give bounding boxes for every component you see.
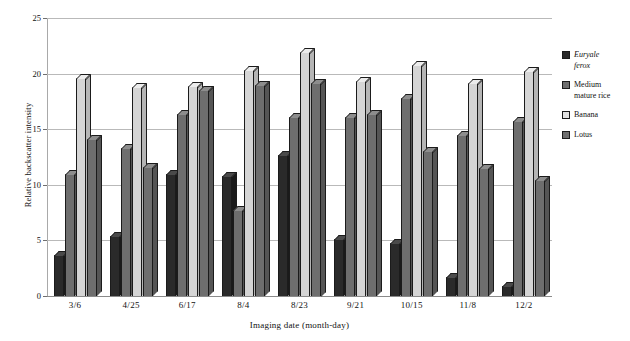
bar-group <box>440 18 496 296</box>
bar[interactable] <box>367 114 377 296</box>
bar[interactable] <box>132 87 142 296</box>
bar[interactable] <box>334 239 344 296</box>
bar-slot <box>278 18 288 296</box>
x-axis-tick-label: 3/6 <box>47 300 103 310</box>
bar[interactable] <box>143 167 153 296</box>
bar-side-face <box>489 164 494 296</box>
bar[interactable] <box>390 243 400 296</box>
bar[interactable] <box>479 168 489 296</box>
bar[interactable] <box>65 174 75 296</box>
bar-slot <box>535 18 545 296</box>
bar[interactable] <box>255 85 265 296</box>
bar-side-face <box>97 135 102 296</box>
bar-side-face <box>265 81 270 296</box>
bar-side-face <box>321 79 326 297</box>
bar-slot <box>345 18 355 296</box>
bar[interactable] <box>233 210 243 296</box>
bar-front-face <box>413 66 421 296</box>
bar[interactable] <box>311 83 321 297</box>
bar-front-face <box>514 122 522 296</box>
bar[interactable] <box>513 121 523 296</box>
bar[interactable] <box>166 174 176 296</box>
bar-slot <box>356 18 366 296</box>
bar-slot <box>334 18 344 296</box>
bar-slot <box>87 18 97 296</box>
x-axis-tick-label: 9/21 <box>328 300 384 310</box>
bar-slot <box>110 18 120 296</box>
bar-front-face <box>525 72 533 296</box>
bar-slot <box>524 18 534 296</box>
bar-front-face <box>178 115 186 296</box>
bar-front-face <box>290 118 298 296</box>
bar-slot <box>300 18 310 296</box>
bar[interactable] <box>289 117 299 296</box>
bar-slot <box>255 18 265 296</box>
bar[interactable] <box>412 65 422 296</box>
legend-label-line2: ferox <box>574 61 590 70</box>
bar-slot <box>479 18 489 296</box>
bar[interactable] <box>345 117 355 296</box>
legend-item[interactable]: Banana <box>562 110 630 121</box>
bar[interactable] <box>535 180 545 296</box>
bar[interactable] <box>188 86 198 296</box>
bar-slot <box>502 18 512 296</box>
x-axis-tick-label: 11/8 <box>440 300 496 310</box>
chart-figure: Relative backscatter intensity 051015202… <box>0 0 630 341</box>
bar[interactable] <box>87 139 97 296</box>
x-axis-tick-label: 8/4 <box>215 300 271 310</box>
bar-front-face <box>66 175 74 296</box>
bar-group <box>384 18 440 296</box>
bar[interactable] <box>300 52 310 296</box>
bar-front-face <box>88 140 96 296</box>
bar[interactable] <box>244 70 254 296</box>
bar-slot <box>177 18 187 296</box>
legend-item[interactable]: Euryaleferox <box>562 50 630 71</box>
bar-side-face <box>377 110 382 296</box>
bar-slot <box>401 18 411 296</box>
bar[interactable] <box>76 78 86 296</box>
bar-slot <box>199 18 209 296</box>
bar-front-face <box>234 211 242 296</box>
bar[interactable] <box>401 98 411 296</box>
bar-front-face <box>402 99 410 296</box>
x-axis-tick-label: 4/25 <box>103 300 159 310</box>
chart-legend: EuryaleferoxMediummature riceBananaLotus <box>562 50 630 149</box>
bar-front-face <box>144 168 152 296</box>
bar-front-face <box>279 156 287 296</box>
bar-slot <box>233 18 243 296</box>
bar[interactable] <box>423 151 433 296</box>
plot-area: 0510152025 <box>47 18 552 296</box>
legend-item[interactable]: Lotus <box>562 130 630 141</box>
bar-front-face <box>111 237 119 296</box>
bar-group <box>271 18 327 296</box>
bar[interactable] <box>177 114 187 296</box>
bar[interactable] <box>278 155 288 296</box>
bar-slot <box>222 18 232 296</box>
bar[interactable] <box>446 277 456 296</box>
bar[interactable] <box>502 286 512 296</box>
bar[interactable] <box>121 148 131 296</box>
bar-front-face <box>133 88 141 296</box>
bar[interactable] <box>457 135 467 296</box>
bar[interactable] <box>524 71 534 296</box>
bar[interactable] <box>54 255 64 296</box>
bar-front-face <box>368 115 376 296</box>
bar-groups <box>47 18 552 296</box>
x-axis-tick-label: 8/23 <box>271 300 327 310</box>
bar[interactable] <box>110 236 120 296</box>
bar[interactable] <box>222 176 232 296</box>
legend-item[interactable]: Mediummature rice <box>562 80 630 101</box>
bar-slot <box>244 18 254 296</box>
bar[interactable] <box>356 81 366 296</box>
y-axis-tick-label: 20 <box>33 69 42 79</box>
y-axis-tick-label: 10 <box>33 180 42 190</box>
bar-slot <box>132 18 142 296</box>
x-axis-tick-label: 12/2 <box>496 300 552 310</box>
bar[interactable] <box>468 83 478 297</box>
bar-front-face <box>458 136 466 296</box>
bar-front-face <box>223 177 231 296</box>
bar[interactable] <box>199 90 209 296</box>
bar-front-face <box>357 82 365 296</box>
bar-group <box>215 18 271 296</box>
bar-front-face <box>55 256 63 296</box>
